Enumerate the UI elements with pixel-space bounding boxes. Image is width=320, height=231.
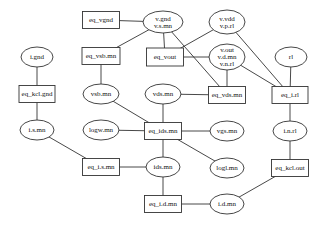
variable-node-vds-mn: vds.mn xyxy=(145,84,181,104)
node-label: logl.mn xyxy=(216,164,238,172)
equation-node-eq-i-rl: eq_i.rl xyxy=(272,87,308,104)
variable-node-rl: rl xyxy=(275,47,307,67)
constraint-graph: eq_vgndv.gndv.s.mnv.vddv.p.rleq_vsb.mneq… xyxy=(0,0,320,231)
equation-node-eq-kcl-out: eq_kcl.out xyxy=(272,160,309,177)
node-label: eq_ids.mn xyxy=(149,127,178,135)
node-label: eq_vsb.mn xyxy=(86,52,117,60)
variable-node-ids-mn: ids.mn xyxy=(146,157,180,177)
node-label: i.d.mn xyxy=(218,200,236,208)
node-label: eq_i.s.mn xyxy=(87,163,115,171)
variable-node-i-gnd: i.gnd xyxy=(21,47,53,67)
variable-node-i-s-mn: i.s.mn xyxy=(20,120,54,140)
node-label: logw.mn xyxy=(89,126,114,134)
node-label: eq_i.d.mn xyxy=(149,200,177,208)
equation-node-eq-kcl-gnd: eq_kcl.gnd xyxy=(19,86,55,103)
node-label: eq_kcl.out xyxy=(275,164,304,172)
equation-node-eq-vgnd: eq_vgnd xyxy=(83,12,120,29)
node-label: v.n.rl xyxy=(220,60,234,68)
equation-node-eq-i-s-mn: eq_i.s.mn xyxy=(83,159,120,176)
equation-node-eq-i-d-mn: eq_i.d.mn xyxy=(145,196,182,213)
variable-node-v-gnd: v.gndv.s.mn xyxy=(143,11,183,33)
node-label: ids.mn xyxy=(154,163,173,171)
variable-node-v-vdd: v.vddv.p.rl xyxy=(209,10,245,34)
node-label: eq_vout xyxy=(154,53,177,61)
variable-node-vsb-mn: vsb.mn xyxy=(83,84,119,104)
node-label: i.gnd xyxy=(30,53,45,61)
node-label: v.s.mn xyxy=(154,22,173,30)
equation-node-eq-vout: eq_vout xyxy=(147,48,184,66)
variable-node-i-n-rl: i.n.rl xyxy=(273,121,307,141)
variable-node-vgs-mn: vgs.mn xyxy=(210,121,244,141)
node-label: vsb.mn xyxy=(91,90,112,98)
node-label: vds.mn xyxy=(153,90,174,98)
node-label: i.n.rl xyxy=(283,127,296,135)
equation-node-eq-ids-mn: eq_ids.mn xyxy=(145,123,182,140)
node-label: i.s.mn xyxy=(28,126,46,134)
node-label: eq_i.rl xyxy=(281,91,299,99)
node-label: v.p.rl xyxy=(220,22,234,30)
variable-node-v-out: v.outv.d.mnv.n.rl xyxy=(209,44,245,70)
equation-node-eq-vds-mn: eq_vds.mn xyxy=(209,87,246,104)
variable-node-logw-mn: logw.mn xyxy=(83,120,119,140)
variable-node-logl-mn: logl.mn xyxy=(210,158,244,178)
equation-node-eq-vsb-mn: eq_vsb.mn xyxy=(82,48,120,65)
node-label: eq_vgnd xyxy=(89,16,114,24)
node-label: vgs.mn xyxy=(217,127,238,135)
node-label: rl xyxy=(289,53,293,61)
node-label: eq_kcl.gnd xyxy=(22,90,53,98)
variable-node-i-d-mn: i.d.mn xyxy=(210,194,244,214)
node-label: eq_vds.mn xyxy=(212,91,243,99)
graph-canvas: eq_vgndv.gndv.s.mnv.vddv.p.rleq_vsb.mneq… xyxy=(0,0,320,231)
